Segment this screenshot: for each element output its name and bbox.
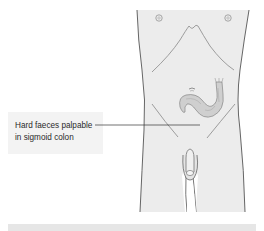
annotation-label: Hard faeces palpable in sigmoid colon [15, 120, 92, 144]
body-outline [137, 10, 249, 212]
annotation-line-1: Hard faeces palpable [15, 120, 92, 132]
caption-bar [8, 224, 256, 231]
abdomen-illustration [0, 0, 264, 231]
annotation-line-2: in sigmoid colon [15, 132, 92, 144]
